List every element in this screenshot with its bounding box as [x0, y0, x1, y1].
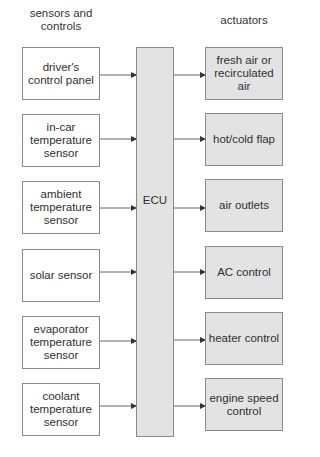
sensor-label: driver's control panel [25, 61, 97, 87]
actuator-label: engine speed control [208, 392, 280, 418]
sensor-box-coolant-temperature: coolant temperature sensor [22, 383, 100, 436]
actuator-label: air outlets [219, 199, 269, 212]
sensor-box-solar: solar sensor [22, 249, 100, 302]
ecu-block: ECU [136, 47, 174, 437]
actuator-label: fresh air or recirculated air [208, 54, 280, 93]
sensor-label: ambient temperature sensor [25, 188, 97, 227]
actuator-label: heater control [209, 332, 279, 345]
actuator-box-hot-cold-flap: hot/cold flap [205, 113, 283, 166]
actuator-box-fresh-air: fresh air or recirculated air [205, 47, 283, 100]
actuator-box-engine-speed-control: engine speed control [205, 378, 283, 431]
sensor-box-ambient-temperature: ambient temperature sensor [22, 181, 100, 234]
actuator-label: hot/cold flap [213, 133, 275, 146]
sensor-label: evaporator temperature sensor [25, 323, 97, 362]
actuator-label: AC control [217, 266, 271, 279]
ecu-label: ECU [137, 194, 173, 206]
sensor-label: solar sensor [30, 269, 93, 282]
sensor-box-evaporator-temperature: evaporator temperature sensor [22, 316, 100, 369]
sensor-box-drivers-control-panel: driver's control panel [22, 47, 100, 100]
sensor-box-in-car-temperature: in-car temperature sensor [22, 114, 100, 167]
actuator-box-ac-control: AC control [205, 246, 283, 299]
actuator-box-heater-control: heater control [205, 312, 283, 365]
sensor-label: coolant temperature sensor [25, 390, 97, 429]
actuator-box-air-outlets: air outlets [205, 179, 283, 232]
sensor-label: in-car temperature sensor [25, 121, 97, 160]
